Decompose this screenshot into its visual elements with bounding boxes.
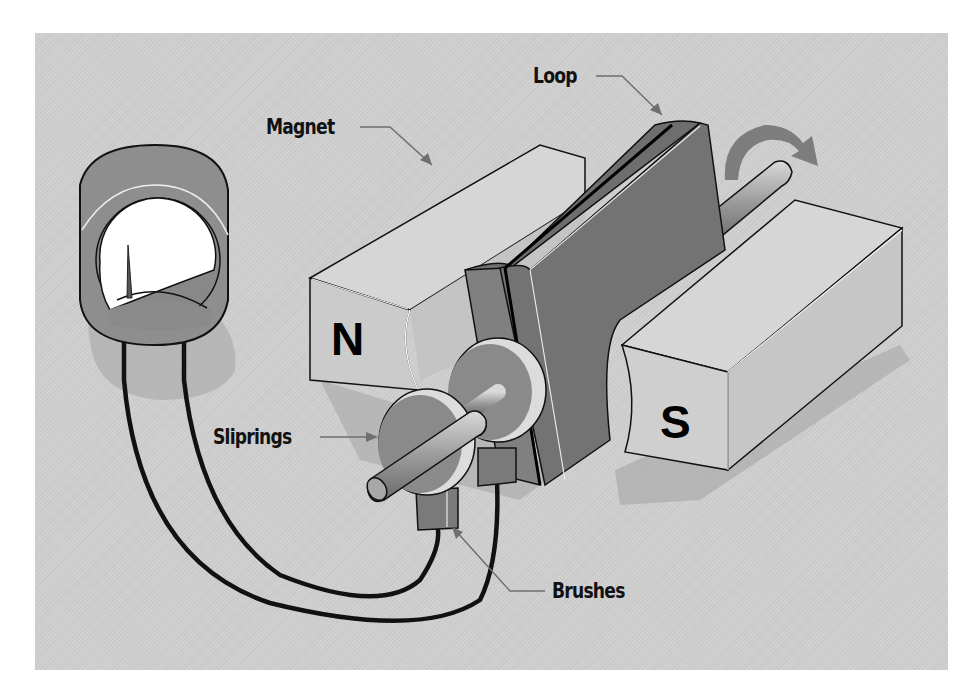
south-pole-label: S [660,395,691,449]
sliprings-label: Sliprings [213,424,291,449]
loop-label: Loop [533,63,577,88]
generator-illustration [0,0,978,689]
meter-icon [80,145,228,345]
magnet-label: Magnet [266,114,334,139]
north-pole-label: N [331,312,364,366]
brushes-label: Brushes [552,578,625,603]
